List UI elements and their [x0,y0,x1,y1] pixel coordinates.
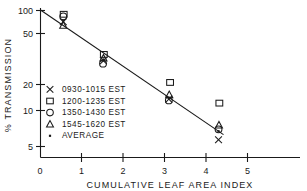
dot-marker [62,20,64,22]
triangle-marker [47,121,54,127]
x-tick-label-5: 5 [245,166,250,176]
x-tick-label-0: 0 [37,166,42,176]
y-tick-label-50: 50 [23,29,33,39]
y-tick-label-100: 100 [18,6,33,16]
legend-item: AVERAGE [49,131,105,140]
transmission-vs-leaf-area-chart: 100 50 20 10 5 0 1 2 3 4 5 CUMULATIVE LE… [0,0,307,191]
x-axis-title: CUMULATIVE LEAF AREA INDEX [87,180,254,190]
x-tick-label-3: 3 [162,166,167,176]
x-tick-label-1: 1 [79,166,84,176]
x-tick-label-4: 4 [203,166,208,176]
legend-label: 1200-1235 EST [62,97,126,106]
square-marker [47,98,54,104]
dot-marker [217,130,219,132]
legend-item: 1350-1430 EST [47,108,126,117]
chart-canvas: 100 50 20 10 5 0 1 2 3 4 5 CUMULATIVE LE… [0,0,307,191]
x-axis-tick-labels: 0 1 2 3 4 5 [37,166,250,176]
dot-marker [49,135,51,137]
y-tick-label-10: 10 [23,106,33,116]
triangle-marker [215,121,222,128]
dot-marker [168,97,170,99]
dot-marker [102,58,104,60]
y-axis-title: % TRANSMISSION [3,38,13,132]
y-axis-tick-labels: 100 50 20 10 5 [18,6,33,152]
square-marker [167,80,174,86]
circle-marker [60,13,67,20]
legend-label: 1545-1620 EST [62,120,126,129]
x-marker [215,136,222,143]
x-tick-label-2: 2 [120,166,125,176]
legend-label: 0930-1015 EST [62,85,126,94]
legend-item: 1200-1235 EST [47,97,126,106]
y-tick-label-20: 20 [23,80,33,90]
legend-item: 0930-1015 EST [47,85,126,94]
square-marker [216,100,223,106]
circle-marker [47,109,54,116]
x-marker [47,86,54,93]
legend-item: 1545-1620 EST [47,120,126,129]
y-tick-label-5: 5 [28,142,33,152]
legend-label: AVERAGE [62,131,105,140]
chart-legend: 0930-1015 EST1200-1235 EST1350-1430 EST1… [47,85,126,140]
legend-label: 1350-1430 EST [62,108,126,117]
